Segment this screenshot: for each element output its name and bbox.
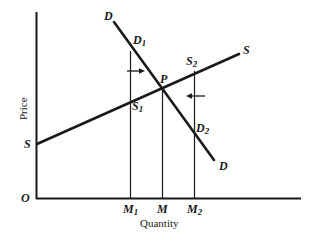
x-tick-m2-base: M — [187, 202, 198, 216]
demand-curve — [114, 22, 214, 160]
y-axis-title: Price — [18, 97, 29, 120]
label-demand-shift-d1: D1 — [133, 34, 146, 48]
label-s1-subscript: 1 — [139, 104, 143, 114]
x-tick-m1-subscript: 1 — [134, 207, 138, 217]
label-s2-subscript: 2 — [193, 59, 197, 69]
shift-arrow-left — [186, 93, 205, 99]
label-d2-subscript: 2 — [205, 126, 209, 136]
label-origin: O — [21, 192, 30, 204]
label-demand-top: D — [104, 10, 113, 22]
label-demand-bottom: D — [219, 160, 228, 172]
label-s2-base: S — [186, 54, 193, 68]
x-axis-title: Quantity — [140, 218, 179, 229]
supply-demand-figure: D D S S D1 S1 S2 D2 P O M1 M M2 Quantity… — [0, 0, 311, 241]
label-supply-shift-s2: S2 — [186, 55, 197, 69]
label-s1-base: S — [132, 99, 139, 113]
label-d1-subscript: 1 — [142, 38, 146, 48]
label-supply-shift-s1: S1 — [132, 100, 143, 114]
label-equilibrium-p: P — [160, 73, 167, 85]
x-tick-m2-subscript: 2 — [198, 207, 202, 217]
x-tick-m1-base: M — [123, 202, 134, 216]
x-tick-label-m1: M1 — [123, 203, 138, 217]
x-tick-label-m: M — [157, 203, 168, 215]
label-supply-right: S — [243, 44, 250, 56]
label-supply-left: S — [24, 138, 31, 150]
shift-arrow-right — [127, 68, 145, 74]
label-d1-base: D — [133, 33, 142, 47]
label-d2-base: D — [196, 121, 205, 135]
label-demand-shift-d2: D2 — [196, 122, 209, 136]
diagram-canvas — [0, 0, 311, 241]
x-tick-label-m2: M2 — [187, 203, 202, 217]
